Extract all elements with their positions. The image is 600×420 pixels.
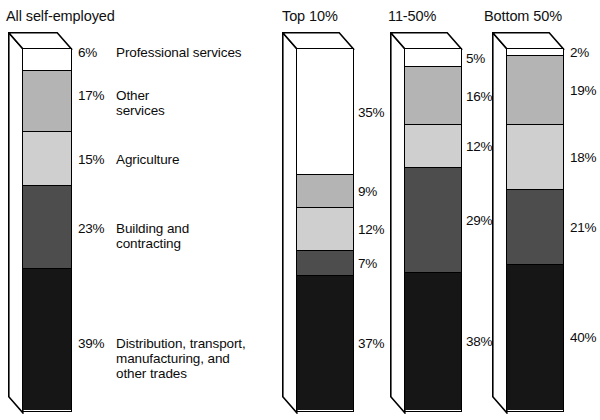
- value-label: 40%: [570, 330, 596, 345]
- bar-segment: [23, 49, 71, 71]
- bar-segment: [507, 56, 563, 125]
- bar-segment: [405, 49, 461, 67]
- bar-segment: [297, 208, 353, 251]
- bar-segment: [297, 175, 353, 207]
- bar-front-face-top-10: [296, 48, 354, 412]
- bar-front-face-bottom-50: [506, 48, 564, 412]
- bar-segment: [23, 71, 71, 132]
- bar-segment: [405, 67, 461, 125]
- bar-segment: [23, 186, 71, 269]
- bar-3d-11-50: [404, 48, 462, 412]
- bar-segment: [297, 276, 353, 409]
- value-label: 2%: [570, 45, 589, 60]
- bar-segment: [405, 168, 461, 273]
- bar-front-face-all-self-employed: [22, 48, 72, 412]
- column-title-bottom-50: Bottom 50%: [484, 8, 562, 24]
- value-label: 18%: [570, 150, 596, 165]
- bar-segment: [23, 269, 71, 410]
- bar-segment: [507, 49, 563, 56]
- bar-3d-bottom-50: [506, 48, 564, 412]
- value-label: 19%: [570, 83, 596, 98]
- bar-segment: [405, 273, 461, 410]
- bar-segment: [405, 125, 461, 168]
- bar-segment: [297, 251, 353, 276]
- bar-segment: [507, 265, 563, 409]
- bar-segment: [23, 132, 71, 186]
- value-label: 21%: [570, 220, 596, 235]
- bar-segment: [507, 190, 563, 266]
- bar-segment: [297, 49, 353, 175]
- stacked-bar-chart: All self-employed6%Professional services…: [0, 0, 600, 420]
- bar-3d-all-self-employed: [22, 48, 72, 412]
- bar-3d-top-10: [296, 48, 354, 412]
- bar-front-face-11-50: [404, 48, 462, 412]
- bar-segment: [507, 125, 563, 190]
